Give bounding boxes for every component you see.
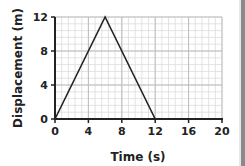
y-tick-label: 4: [40, 79, 48, 92]
x-tick-label: 4: [85, 125, 93, 138]
x-tick-label: 0: [51, 125, 59, 138]
x-tick-label: 8: [118, 125, 126, 138]
y-axis-label: Displacement (m): [11, 8, 25, 128]
displacement-line: [55, 17, 155, 119]
x-axis-label: Time (s): [110, 150, 165, 164]
y-tick-label: 0: [40, 113, 48, 126]
x-tick-label: 20: [214, 125, 230, 138]
y-axis-ticks: 04812: [33, 11, 55, 126]
x-axis-ticks: 048121620: [51, 119, 230, 138]
edge-bar: [241, 0, 245, 166]
displacement-time-chart: 048121620 04812 Time (s) Displacement (m…: [0, 0, 245, 166]
x-tick-label: 16: [181, 125, 197, 138]
data-series: [55, 17, 155, 119]
y-tick-label: 12: [33, 11, 48, 24]
y-tick-label: 8: [40, 45, 48, 58]
x-tick-label: 12: [148, 125, 163, 138]
